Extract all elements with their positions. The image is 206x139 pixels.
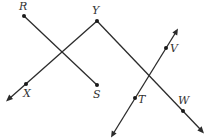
point-s	[95, 83, 99, 87]
point-v	[164, 46, 168, 50]
label-w: W	[178, 94, 191, 107]
label-v: V	[170, 42, 179, 55]
point-x	[24, 82, 28, 86]
point-y	[95, 19, 99, 23]
label-s: S	[93, 88, 101, 101]
segment-rs	[24, 16, 97, 85]
label-y: Y	[92, 4, 101, 17]
label-t: T	[138, 93, 147, 106]
point-r	[22, 14, 26, 18]
point-t	[133, 96, 137, 100]
geometry-diagram: R Y X S V T W	[0, 0, 206, 139]
label-r: R	[18, 0, 27, 13]
point-w	[181, 109, 185, 113]
label-x: X	[22, 87, 32, 100]
